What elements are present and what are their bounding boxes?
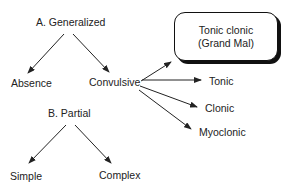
node-clonic: Clonic [205, 103, 234, 114]
node-convulsive: Convulsive [89, 77, 140, 88]
edge-convulsive-myoclonic [139, 90, 191, 129]
node-partial: B. Partial [48, 108, 91, 119]
edge-convulsive-tonic-clonic [141, 62, 171, 81]
node-tonic-clonic-line1: Tonic clonic [199, 24, 253, 37]
node-complex: Complex [99, 170, 140, 181]
node-tonic: Tonic [209, 76, 234, 87]
edge-partial-complex [75, 125, 111, 163]
node-simple: Simple [10, 171, 42, 182]
node-myoclonic: Myoclonic [199, 127, 246, 138]
node-tonic-clonic-box: Tonic clonic (Grand Mal) [174, 12, 278, 61]
edge-generalized-convulsive [73, 34, 109, 72]
edge-partial-simple [29, 125, 66, 163]
edge-convulsive-clonic [140, 86, 197, 107]
node-tonic-clonic-line2: (Grand Mal) [198, 37, 254, 50]
edge-generalized-absence [28, 34, 64, 73]
node-generalized: A. Generalized [36, 17, 105, 28]
node-absence: Absence [11, 78, 52, 89]
